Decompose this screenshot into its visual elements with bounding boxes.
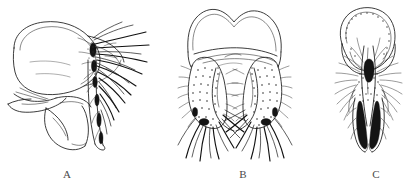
figure-panel-a: A [0, 0, 160, 165]
panel-label-b: B [233, 168, 253, 180]
panel-b-drawing [170, 0, 315, 165]
panel-label-a: A [57, 168, 77, 180]
panel-c-drawing [322, 0, 417, 165]
figure-plate: A [0, 0, 417, 191]
figure-panel-b: B [170, 0, 315, 165]
figure-panel-c: C [322, 0, 417, 165]
panel-a-drawing [0, 0, 160, 165]
panel-label-c: C [366, 168, 386, 180]
